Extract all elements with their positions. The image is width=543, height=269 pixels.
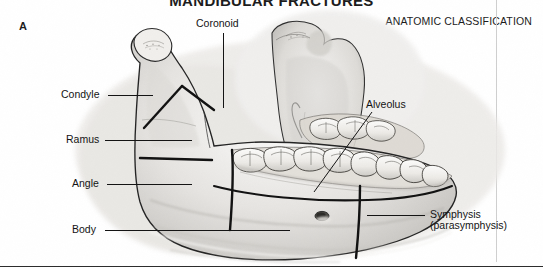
label-ramus: Ramus (66, 134, 99, 146)
leader-condyle (108, 95, 153, 96)
label-body: Body (72, 224, 96, 236)
leader-alveolus (300, 110, 380, 196)
label-parasymphysis: (parasymphysis) (430, 220, 507, 232)
label-alveolus: Alveolus (366, 99, 406, 111)
leader-ramus (105, 140, 192, 141)
label-condyle: Condyle (61, 89, 100, 101)
figure-panel: MANDIBULAR FRACTURES A ANATOMIC CLASSIFI… (0, 0, 543, 269)
label-angle: Angle (72, 178, 99, 190)
label-coronoid: Coronoid (196, 18, 239, 30)
leader-body (105, 230, 290, 231)
leader-symphysis (367, 215, 425, 216)
leader-coronoid (223, 33, 224, 108)
leader-angle (107, 184, 192, 185)
